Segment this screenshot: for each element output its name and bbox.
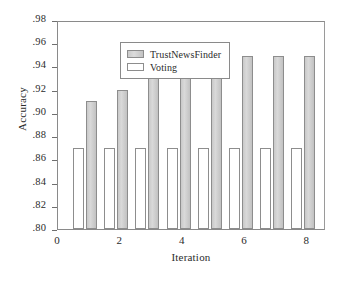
- bar-trustnewsfinder-iteration-5: [211, 56, 222, 229]
- bar-voting-iteration-4: [167, 148, 178, 229]
- legend-item-voting: Voting: [127, 61, 224, 73]
- bar-voting-iteration-5: [198, 148, 209, 229]
- bar-voting-iteration-7: [260, 148, 271, 229]
- x-tick-label: 8: [292, 234, 320, 246]
- y-tick-label: .96: [33, 36, 46, 47]
- y-tick-mark: [52, 230, 57, 231]
- y-tick-label: .90: [33, 106, 46, 117]
- y-tick-label: .86: [33, 152, 46, 163]
- bar-trustnewsfinder-iteration-2: [117, 90, 128, 229]
- legend-swatch-voting: [127, 63, 144, 71]
- accuracy-vs-iteration-chart: Accuracy Iteration .80.82.84.86.88.90.92…: [0, 0, 356, 281]
- plot-area: TrustNewsFinder Voting: [57, 21, 325, 230]
- bar-voting-iteration-3: [135, 148, 146, 229]
- y-tick-label: .92: [33, 83, 46, 94]
- bar-voting-iteration-2: [104, 148, 115, 229]
- y-tick-label: .82: [33, 199, 46, 210]
- legend-swatch-trustnewsfinder: [127, 50, 144, 58]
- x-tick-label: 4: [168, 234, 196, 246]
- legend-item-trustnewsfinder: TrustNewsFinder: [127, 48, 224, 60]
- bar-voting-iteration-6: [229, 148, 240, 229]
- bar-trustnewsfinder-iteration-1: [86, 101, 97, 229]
- bar-trustnewsfinder-iteration-6: [242, 56, 253, 229]
- y-axis-title: Accuracy: [16, 49, 28, 169]
- y-tick-label: .98: [33, 13, 46, 24]
- figure-caption: [0, 272, 356, 281]
- y-tick-label: .84: [33, 176, 46, 187]
- x-tick-label: 2: [105, 234, 133, 246]
- x-tick-label: 6: [230, 234, 258, 246]
- legend-label-trustnewsfinder: TrustNewsFinder: [150, 49, 221, 60]
- legend-label-voting: Voting: [150, 62, 177, 73]
- bar-trustnewsfinder-iteration-4: [180, 68, 191, 229]
- x-axis-title: Iteration: [57, 251, 325, 263]
- bar-trustnewsfinder-iteration-3: [148, 73, 159, 229]
- bar-voting-iteration-1: [73, 148, 84, 229]
- x-tick-label: 0: [43, 234, 71, 246]
- bar-voting-iteration-8: [291, 148, 302, 229]
- y-tick-label: .88: [33, 129, 46, 140]
- y-tick-label: .80: [33, 222, 46, 233]
- bar-trustnewsfinder-iteration-7: [273, 56, 284, 229]
- y-tick-label: .94: [33, 59, 46, 70]
- bar-trustnewsfinder-iteration-8: [304, 56, 315, 229]
- chart-legend: TrustNewsFinder Voting: [120, 42, 230, 79]
